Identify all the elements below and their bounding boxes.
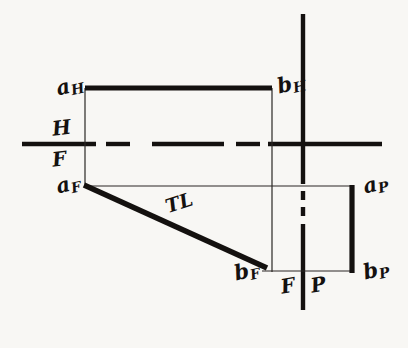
label-a-p: aP: [361, 170, 390, 198]
label-plane-f-left: F: [51, 148, 68, 170]
label-plane-p: P: [309, 273, 327, 295]
label-a-f: aF: [54, 171, 83, 199]
caption-cutoff: [118, 330, 298, 346]
projection-figure: aH bH H F aF bF TL aP bP F P: [0, 0, 408, 348]
label-b-p: bP: [361, 256, 391, 285]
label-plane-h: H: [51, 117, 72, 139]
label-b-f: bF: [232, 257, 262, 285]
